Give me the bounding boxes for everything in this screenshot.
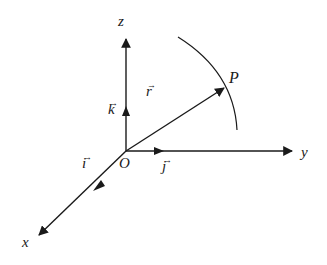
unit-j-label: →j bbox=[162, 159, 166, 174]
x-axis-label: x bbox=[22, 235, 29, 250]
vector-arrow-icon: → bbox=[147, 81, 153, 90]
coordinate-diagram bbox=[0, 0, 327, 265]
vector-r-label: →r bbox=[146, 84, 152, 99]
z-axis-label: z bbox=[118, 14, 124, 29]
j-arrowhead-icon bbox=[154, 147, 164, 155]
unit-i-label: →i bbox=[82, 156, 86, 171]
position-vector-r bbox=[126, 88, 224, 151]
unit-k-label: →k bbox=[108, 102, 115, 117]
vector-arrow-icon: → bbox=[163, 156, 167, 165]
point-p-label: P bbox=[229, 70, 239, 86]
y-axis-label: y bbox=[301, 145, 308, 160]
vector-arrow-icon: → bbox=[109, 99, 116, 108]
vector-arrow-icon: → bbox=[83, 153, 87, 162]
origin-label: O bbox=[119, 156, 130, 171]
k-arrowhead-icon bbox=[122, 106, 130, 116]
